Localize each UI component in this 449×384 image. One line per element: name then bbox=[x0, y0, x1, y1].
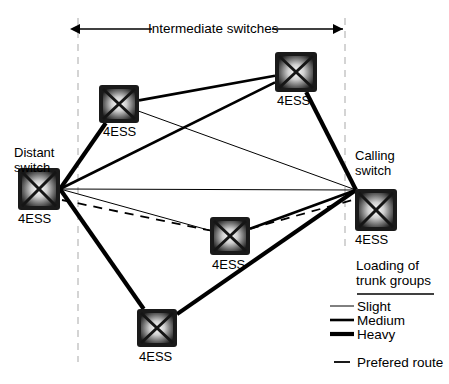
node-title-calling: Calling bbox=[355, 149, 395, 163]
preferred-route-path bbox=[62, 199, 356, 230]
switch-node-bottom[interactable] bbox=[137, 309, 177, 347]
edge-upper_left-top-medium bbox=[139, 76, 275, 101]
legend-label-heavy: Heavy bbox=[357, 327, 395, 342]
node-label-bottom: 4ESS bbox=[139, 350, 172, 364]
edge-distant-upper_left-heavy bbox=[60, 123, 106, 189]
node-label-calling: 4ESS bbox=[355, 233, 388, 247]
node-label-top: 4ESS bbox=[277, 94, 310, 108]
intermediate-switches-label: Intermediate switches bbox=[148, 21, 279, 36]
switch-node-center[interactable] bbox=[210, 217, 250, 255]
node-label-upper_left: 4ESS bbox=[103, 125, 136, 139]
edge-center-calling-medium bbox=[250, 190, 356, 229]
node-label-distant: 4ESS bbox=[18, 212, 51, 226]
switch-node-top[interactable] bbox=[275, 52, 317, 92]
switch-node-upper_left[interactable] bbox=[99, 85, 139, 123]
edge-distant-top-medium bbox=[60, 82, 275, 189]
node-title-distant: Distant bbox=[14, 146, 54, 160]
switch-node-calling[interactable] bbox=[355, 189, 397, 231]
legend-title-line2: trunk groups bbox=[356, 273, 431, 288]
edge-distant-calling-slight bbox=[60, 189, 356, 190]
node-label-center: 4ESS bbox=[212, 258, 245, 272]
node-title-calling: switch bbox=[355, 164, 391, 178]
diagram-canvas: Intermediate switches Distantswitch4ESS4… bbox=[0, 0, 449, 384]
edge-top-calling-heavy bbox=[306, 92, 356, 190]
legend-label-preferred-route: Prefered route bbox=[357, 355, 443, 370]
edge-distant-bottom-heavy bbox=[60, 189, 144, 309]
edge-bottom-calling-heavy bbox=[177, 190, 356, 314]
legend-title-line1: Loading of bbox=[356, 258, 419, 273]
legend-label-medium: Medium bbox=[357, 313, 405, 328]
node-title-distant: switch bbox=[14, 161, 50, 175]
legend-label-slight: Slight bbox=[357, 299, 391, 314]
